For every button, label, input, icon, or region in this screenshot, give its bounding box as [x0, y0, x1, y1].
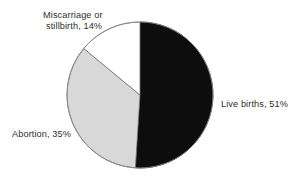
pie-label-miscarriage-line1: Miscarriage or [43, 10, 103, 20]
pie-label-miscarriage-line2: stillbirth, 14% [43, 21, 103, 32]
pie-label-miscarriage-or-stillbirth: Miscarriage or stillbirth, 14% [43, 10, 103, 33]
pie-slice-live-births [135, 22, 213, 168]
pie-label-live-births: Live births, 51% [221, 99, 288, 110]
pie-slice-group [67, 22, 213, 168]
pie-chart-figure: Miscarriage or stillbirth, 14% Live birt… [0, 0, 305, 184]
pie-label-abortion: Abortion, 35% [12, 129, 71, 140]
